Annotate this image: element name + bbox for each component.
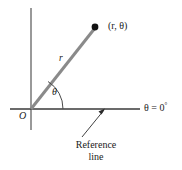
- axis-zero-text: θ = 0: [144, 102, 164, 113]
- reference-line-caption: Reference line: [56, 139, 136, 163]
- callout-leader-line: [82, 110, 104, 137]
- angle-theta-label: θ: [52, 87, 57, 97]
- polar-coordinate-diagram: (r, θ) r θ O θ = 0° Reference line: [0, 0, 182, 170]
- radius-label: r: [59, 54, 63, 64]
- origin-label: O: [19, 111, 26, 121]
- degree-symbol: °: [164, 101, 167, 109]
- reference-caption-line-1: Reference: [56, 139, 136, 151]
- reference-caption-line-2: line: [56, 151, 136, 163]
- axis-zero-angle-label: θ = 0°: [144, 102, 167, 113]
- point-marker: [92, 24, 99, 31]
- radius-ray: [31, 28, 95, 109]
- point-coordinate-label: (r, θ): [108, 21, 127, 31]
